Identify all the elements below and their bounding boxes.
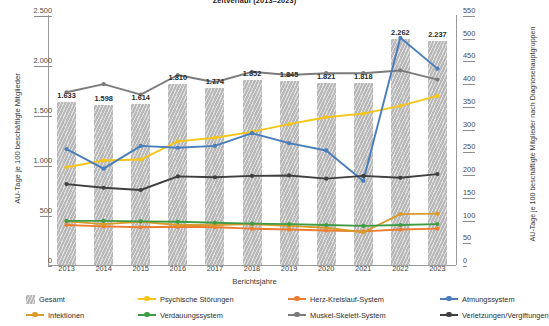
data-point [102,82,106,86]
data-point [139,144,143,148]
legend-item[interactable]: Gesamt [26,295,138,304]
data-point [176,146,180,150]
y-axis-right-tick: 200 [463,165,475,176]
plot-area [48,15,456,265]
y-axis-left-title: AU-Tage je 100 beschäftigte Mitglieder [13,64,22,214]
bar-value-label: 1.633 [47,91,87,100]
x-axis-tick: 2018 [235,264,269,273]
data-point [250,222,254,226]
bar-value-label: 1.852 [232,69,272,78]
data-point [139,157,143,161]
data-point [324,177,328,181]
data-point [250,174,254,178]
data-point [398,176,402,180]
legend-line-icon [288,311,306,320]
y-axis-right-tick: 150 [463,188,475,199]
y-axis-right-title: AU-Tage je 100 beschäftigte Mitglieder n… [529,4,537,264]
data-point [102,167,106,171]
bar-value-label: 1.818 [343,72,383,81]
y-axis-right-tick: 300 [463,120,475,131]
bar-value-label: 2.262 [380,28,420,37]
data-point [102,158,106,162]
data-point [176,174,180,178]
bar-value-label: 2.237 [417,30,457,39]
data-point [250,227,254,231]
y-axis-right-tick: 400 [463,74,475,85]
data-point [139,188,143,192]
y-axis-right-tick: 450 [463,51,475,62]
data-point [176,139,180,143]
data-point [361,174,365,178]
legend-item[interactable]: Atmungssystem [440,295,549,304]
legend-item[interactable]: Verletzungen/Vergiftungen [440,311,549,320]
legend-item[interactable]: Herz-Kreislauf-System [288,295,440,304]
legend-label: Muskel-Skelett-System [310,311,386,320]
data-point [398,223,402,227]
bar-value-label: 1.774 [195,77,235,86]
legend-line-icon [138,295,156,304]
legend-label: Verdauungssystem [160,311,223,320]
x-axis-tick: 2013 [50,264,84,273]
bar-value-label: 1.810 [158,73,198,82]
data-point [64,147,68,151]
legend-line-icon [440,311,458,320]
legend-item[interactable]: Psychische Störungen [138,295,288,304]
y-axis-right-tick: 0 [463,256,467,267]
data-point [64,165,68,169]
data-point [398,212,402,216]
y-axis-right-tick: 100 [463,211,475,222]
legend-label: Herz-Kreislauf-System [310,295,384,304]
data-point [213,221,217,225]
data-point [176,220,180,224]
legend-swatch-icon [26,295,35,304]
data-point [287,141,291,145]
data-point [287,227,291,231]
data-point [398,68,402,72]
legend-label: Psychische Störungen [160,295,234,304]
data-point [361,224,365,228]
legend-label: Verletzungen/Vergiftungen [462,311,549,320]
data-point [435,67,439,71]
data-point [361,179,365,183]
x-axis-tick: 2015 [124,264,158,273]
data-point [361,112,365,116]
data-point [435,77,439,81]
y-axis-right-tick: 50 [463,233,471,244]
data-point [102,219,106,223]
legend-item[interactable]: Verdauungssystem [138,311,288,320]
x-axis-title: Berichtsjahre [0,277,509,286]
data-point [250,131,254,135]
x-axis-tick: 2022 [383,264,417,273]
y-axis-right-tick: 350 [463,97,475,108]
legend-line-icon [288,295,306,304]
data-point [287,122,291,126]
legend-item[interactable]: Infektionen [26,311,138,320]
data-point [435,227,439,231]
data-point [361,230,365,234]
legend-label: Infektionen [48,311,84,320]
data-point [213,136,217,140]
data-point [324,148,328,152]
data-point [287,222,291,226]
x-axis-tick: 2019 [272,264,306,273]
y-axis-right-tick: 550 [463,6,475,17]
y-axis-right-tick: 250 [463,142,475,153]
bar-value-label: 1.845 [269,70,309,79]
data-point [102,186,106,190]
data-point [213,144,217,148]
data-point [398,104,402,108]
data-point [435,172,439,176]
x-axis-tick: 2016 [161,264,195,273]
data-point [64,219,68,223]
data-point [324,223,328,227]
bar-value-label: 1.821 [306,72,346,81]
data-point [213,175,217,179]
legend-line-icon [26,311,44,320]
legend-line-icon [138,311,156,320]
data-point [398,227,402,231]
data-point [139,219,143,223]
chart-legend: GesamtPsychische StörungenHerz-Kreislauf… [26,291,496,323]
bar-value-label: 1.598 [84,94,124,103]
legend-item[interactable]: Muskel-Skelett-System [288,311,440,320]
